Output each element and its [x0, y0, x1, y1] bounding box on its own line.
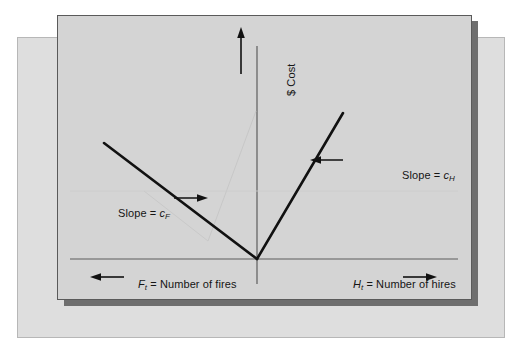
- fires-arrow-head: [90, 273, 101, 281]
- slope-f-arrow-head: [197, 194, 208, 201]
- slope-h-text: Slope =: [402, 169, 443, 181]
- hires-text: = Number of hires: [366, 278, 455, 290]
- slope-f-subscript: F: [165, 212, 170, 221]
- fires-subscript: t: [145, 283, 147, 292]
- fires-text: = Number of fires: [150, 278, 236, 290]
- x-axis-label-fires: Ft = Number of fires: [138, 278, 237, 292]
- x-axis-label-hires: Ht = Number of hires: [353, 278, 456, 292]
- chart-panel: $ Cost Slope = cF Slope = cH Ft = Number…: [57, 15, 472, 300]
- y-axis-label: $ Cost: [285, 64, 297, 96]
- hiring-cost-line: [257, 113, 343, 259]
- cost-function-plot: [58, 16, 471, 299]
- fires-symbol: F: [138, 278, 145, 290]
- y-axis-arrow-head: [237, 27, 245, 38]
- hires-symbol: H: [353, 278, 361, 290]
- hires-subscript: t: [361, 283, 363, 292]
- figure-root: $ Cost Slope = cF Slope = cH Ft = Number…: [0, 0, 523, 355]
- slope-f-text: Slope =: [118, 207, 159, 219]
- background-artifact-line-1: [208, 111, 256, 241]
- firing-cost-line: [104, 143, 257, 259]
- slope-f-annotation: Slope = cF: [118, 207, 170, 221]
- slope-h-annotation: Slope = cH: [402, 169, 455, 183]
- slope-h-subscript: H: [449, 174, 455, 183]
